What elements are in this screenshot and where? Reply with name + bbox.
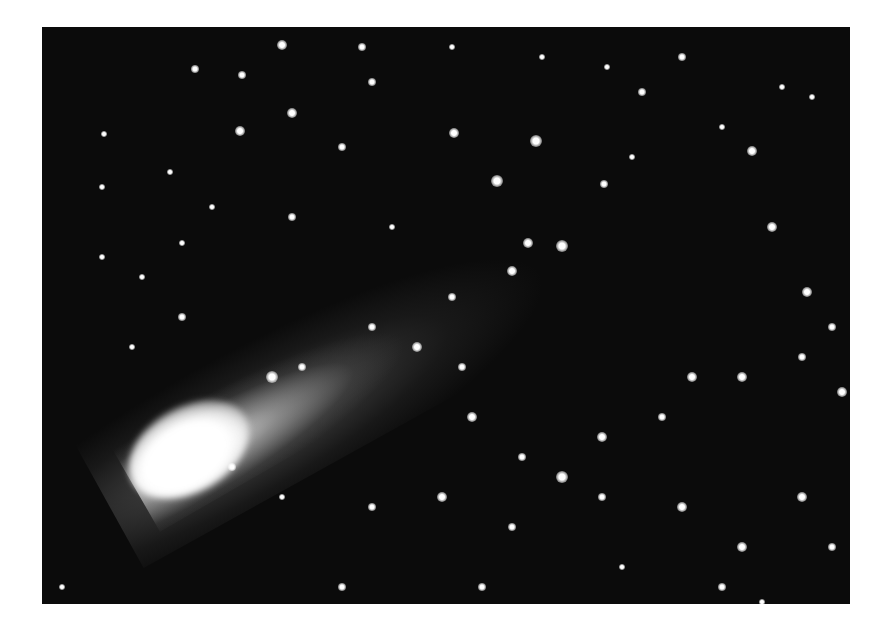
star <box>101 131 107 137</box>
star <box>277 40 287 50</box>
comet-photograph <box>42 27 850 604</box>
star <box>191 65 199 73</box>
star <box>491 175 503 187</box>
star <box>437 492 447 502</box>
star <box>178 313 186 321</box>
star <box>809 94 815 100</box>
star <box>139 274 145 280</box>
star <box>288 213 296 221</box>
star <box>678 53 686 61</box>
star <box>767 222 777 232</box>
star <box>368 503 376 511</box>
star <box>600 180 608 188</box>
star <box>167 169 173 175</box>
star <box>298 363 306 371</box>
star <box>604 64 610 70</box>
star <box>179 240 185 246</box>
star <box>556 240 568 252</box>
star <box>238 71 246 79</box>
star <box>507 266 517 276</box>
star <box>638 88 646 96</box>
star <box>358 43 366 51</box>
star <box>737 542 747 552</box>
star <box>619 564 625 570</box>
star <box>449 128 459 138</box>
star <box>368 78 376 86</box>
star <box>556 471 568 483</box>
star <box>448 293 456 301</box>
star <box>287 108 297 118</box>
star <box>747 146 757 156</box>
star <box>530 135 542 147</box>
star <box>797 492 807 502</box>
star <box>338 143 346 151</box>
star <box>508 523 516 531</box>
star <box>658 413 666 421</box>
star <box>802 287 812 297</box>
star <box>828 323 836 331</box>
star <box>798 353 806 361</box>
star <box>719 124 725 130</box>
star <box>779 84 785 90</box>
star <box>518 453 526 461</box>
star <box>129 344 135 350</box>
star <box>458 363 466 371</box>
star <box>478 583 486 591</box>
star <box>266 371 278 383</box>
star <box>759 599 765 604</box>
star <box>523 238 533 248</box>
star <box>718 583 726 591</box>
star <box>737 372 747 382</box>
star <box>99 254 105 260</box>
star <box>598 493 606 501</box>
star <box>597 432 607 442</box>
star <box>209 204 215 210</box>
star <box>338 583 346 591</box>
star <box>279 494 285 500</box>
star <box>59 584 65 590</box>
star <box>677 502 687 512</box>
star <box>467 412 477 422</box>
star <box>687 372 697 382</box>
star <box>99 184 105 190</box>
star <box>539 54 545 60</box>
star <box>828 543 836 551</box>
star <box>837 387 847 397</box>
star <box>449 44 455 50</box>
star <box>412 342 422 352</box>
star <box>389 224 395 230</box>
star <box>629 154 635 160</box>
star <box>368 323 376 331</box>
star <box>235 126 245 136</box>
